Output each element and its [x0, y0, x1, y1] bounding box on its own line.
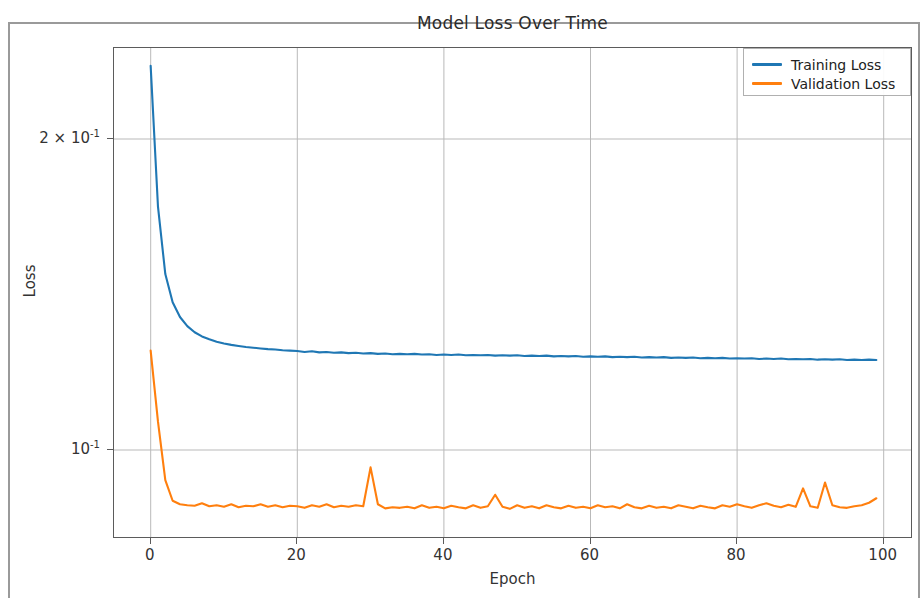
legend-item-validation: Validation Loss — [752, 74, 902, 93]
legend-swatch-training — [752, 63, 782, 66]
x-tick-mark — [150, 538, 151, 544]
legend-swatch-validation — [752, 82, 782, 85]
legend-item-training: Training Loss — [752, 55, 902, 74]
plot-inner — [114, 48, 911, 537]
x-tick-label: 100 — [853, 546, 913, 564]
x-tick-mark — [883, 538, 884, 544]
x-tick-label: 0 — [120, 546, 180, 564]
x-tick-label: 20 — [266, 546, 326, 564]
legend-label-validation: Validation Loss — [791, 76, 895, 92]
legend-label-training: Training Loss — [791, 57, 881, 73]
matplotlib-figure: Model Loss Over Time 020406080100 2 × 10… — [0, 0, 924, 598]
chart-title: Model Loss Over Time — [113, 13, 912, 33]
x-tick-label: 60 — [560, 546, 620, 564]
x-tick-label: 80 — [706, 546, 766, 564]
y-tick-mark — [107, 138, 113, 139]
x-tick-mark — [736, 538, 737, 544]
plot-area — [113, 47, 912, 538]
y-tick-label: 2 × 10-1 — [8, 128, 100, 147]
chart-legend: Training Loss Validation Loss — [743, 48, 911, 96]
y-tick-label: 10-1 — [8, 439, 100, 458]
y-axis-label: Loss — [21, 241, 39, 321]
data-lines — [114, 48, 911, 537]
x-tick-mark — [443, 538, 444, 544]
x-axis-label: Epoch — [113, 570, 912, 588]
x-tick-mark — [590, 538, 591, 544]
y-tick-mark — [107, 449, 113, 450]
x-tick-label: 40 — [413, 546, 473, 564]
x-tick-mark — [296, 538, 297, 544]
